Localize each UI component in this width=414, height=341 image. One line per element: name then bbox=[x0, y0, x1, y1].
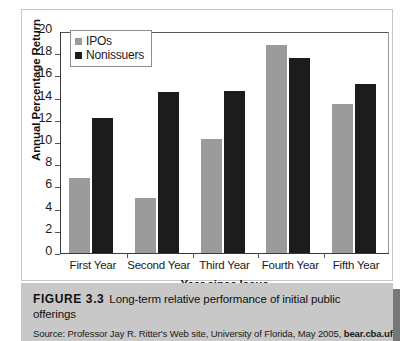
y-axis-tick-label: 20 bbox=[38, 23, 52, 36]
x-axis-category-label: First Year bbox=[60, 259, 126, 271]
x-axis-tick-mark bbox=[127, 253, 128, 258]
bar-ipos bbox=[266, 45, 287, 253]
x-axis-category-label: Third Year bbox=[192, 259, 258, 271]
x-axis-category-label: Second Year bbox=[126, 259, 192, 271]
bar-nonissuers bbox=[289, 58, 310, 253]
x-axis-tick-mark bbox=[258, 253, 259, 258]
y-axis-tick-label: 4 bbox=[45, 201, 52, 214]
bar-group bbox=[324, 32, 390, 253]
bar-nonissuers bbox=[355, 84, 376, 253]
caption-source: Source: Professor Jay R. Ritter's Web si… bbox=[33, 328, 381, 339]
source-text: Source: Professor Jay R. Ritter's Web si… bbox=[33, 328, 344, 339]
y-axis-tick-label: 10 bbox=[38, 134, 52, 147]
caption-shadow bbox=[393, 289, 400, 341]
x-axis-category-label: Fourth Year bbox=[257, 259, 323, 271]
chart-frame: Annual Percentage Return 201816141210864… bbox=[21, 9, 393, 281]
source-link[interactable]: bear.cba.ufl. bbox=[344, 328, 393, 339]
x-axis-tick-mark bbox=[193, 253, 194, 258]
y-axis-tick-label: 8 bbox=[45, 156, 52, 169]
y-axis-tick-label: 18 bbox=[38, 45, 52, 58]
legend-item-ipos: IPOs bbox=[75, 34, 144, 48]
x-axis-tick-mark bbox=[324, 253, 325, 258]
bar-nonissuers bbox=[158, 92, 179, 253]
bar-ipos bbox=[135, 198, 156, 254]
figure-caption: FIGURE 3.3Long-term relative performance… bbox=[21, 283, 393, 341]
bar-ipos bbox=[201, 139, 222, 253]
y-axis-tick-label: 0 bbox=[45, 245, 52, 258]
y-axis-tick-label: 16 bbox=[38, 67, 52, 80]
plot-wrapper: Annual Percentage Return 201816141210864… bbox=[22, 10, 392, 280]
legend-item-nonissuers: Nonissuers bbox=[75, 48, 144, 62]
chart-legend: IPOs Nonissuers bbox=[70, 30, 152, 67]
figure-number: FIGURE 3.3 bbox=[33, 292, 104, 306]
bar-ipos bbox=[69, 178, 90, 253]
bar-nonissuers bbox=[92, 118, 113, 253]
legend-label-nonissuers: Nonissuers bbox=[86, 49, 144, 61]
bar-ipos bbox=[332, 104, 353, 253]
y-axis-tick-label: 2 bbox=[45, 223, 52, 236]
legend-swatch-icon-nonissuers bbox=[75, 52, 82, 59]
caption-title: FIGURE 3.3Long-term relative performance… bbox=[33, 292, 381, 321]
legend-label-ipos: IPOs bbox=[86, 35, 112, 47]
x-axis-category-label: Fifth Year bbox=[323, 259, 389, 271]
legend-swatch-icon-ipos bbox=[75, 38, 82, 45]
y-axis-tick-label: 6 bbox=[45, 178, 52, 191]
y-axis-tick-mark bbox=[55, 254, 60, 255]
y-axis-tick-label: 14 bbox=[38, 90, 52, 103]
bar-nonissuers bbox=[224, 91, 245, 253]
bar-group bbox=[258, 32, 324, 253]
figure-container: Annual Percentage Return 201816141210864… bbox=[0, 0, 414, 341]
bar-group bbox=[193, 32, 259, 253]
y-axis-tick-label: 12 bbox=[38, 112, 52, 125]
